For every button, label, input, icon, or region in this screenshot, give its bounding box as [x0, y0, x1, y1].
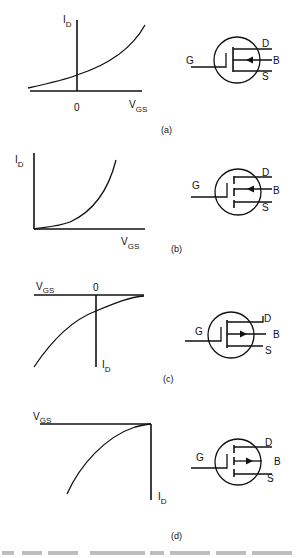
gate-terminal [191, 53, 226, 67]
arrow-inward-icon [246, 57, 253, 64]
caption-b: (b) [171, 244, 182, 254]
drain-label: D [265, 437, 272, 448]
arrow-inward-icon [247, 186, 254, 193]
panel-a: ID 0 VGS G D B S (a) [28, 14, 280, 135]
truncated-figure-caption [0, 548, 296, 558]
id-label: ID [102, 359, 111, 374]
panel-b-symbol: G D B S [191, 167, 280, 215]
transfer-curve [34, 160, 116, 229]
id-label: ID [63, 14, 72, 29]
vgs-label: VGS [121, 236, 139, 251]
gate-label: G [186, 55, 194, 66]
body-label: B [274, 456, 281, 467]
panel-c: VGS 0 ID G D B S (c) [34, 281, 280, 384]
panel-a-graph: ID 0 VGS [28, 14, 147, 114]
panel-c-symbol: G D B S [185, 312, 280, 358]
source-label: S [262, 202, 269, 213]
source-label: S [262, 71, 269, 82]
panel-c-graph: VGS 0 ID [34, 281, 144, 374]
caption-a: (a) [161, 125, 172, 135]
body-label: B [273, 185, 280, 196]
gate-label: G [196, 452, 204, 463]
source-label: S [265, 345, 272, 356]
vgs-label: VGS [33, 411, 51, 425]
transistor-body-circle [215, 439, 261, 485]
panel-b-graph: ID VGS [15, 153, 145, 251]
panel-b: ID VGS G D B S (b) [15, 153, 280, 254]
panel-d-graph: VGS ID [33, 411, 167, 506]
vgs-label: VGS [129, 99, 147, 114]
vgs-label: VGS [36, 281, 54, 295]
caption-c: (c) [163, 374, 174, 384]
panel-d: VGS ID G D B S (d) [33, 411, 281, 541]
transfer-curve [34, 296, 144, 367]
id-label: ID [158, 491, 167, 506]
caption-d: (d) [171, 531, 182, 541]
transfer-curve [28, 25, 145, 88]
drain-label: D [262, 167, 269, 178]
origin-label: 0 [74, 102, 80, 113]
id-label: ID [15, 154, 24, 169]
body-label: B [273, 55, 280, 66]
mosfet-characteristics-figure: ID 0 VGS G D B S (a) ID VGS [0, 0, 296, 558]
transistor-body-circle [215, 169, 261, 215]
panel-d-symbol: G D B S [191, 437, 281, 485]
drain-label: D [262, 38, 269, 49]
gate-terminal [185, 327, 221, 341]
gate-label: G [192, 180, 200, 191]
transfer-curve [67, 424, 151, 494]
transistor-body-circle [208, 312, 254, 358]
body-label: B [273, 329, 280, 340]
arrow-outward-icon [246, 458, 253, 465]
source-label: S [267, 473, 274, 484]
drain-label: D [264, 313, 271, 324]
arrow-outward-icon [240, 331, 247, 338]
gate-label: G [195, 326, 203, 337]
origin-label: 0 [93, 282, 99, 293]
panel-a-symbol: G D B S [186, 37, 280, 83]
